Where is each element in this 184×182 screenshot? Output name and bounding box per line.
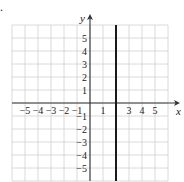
- y-tick-label: −4: [76, 150, 87, 161]
- y-axis-label: y: [79, 12, 85, 24]
- x-tick-label: 4: [140, 105, 145, 116]
- y-tick-label: 3: [82, 59, 87, 70]
- y-tick-label: −3: [76, 137, 87, 148]
- x-tick-label: −5: [20, 105, 31, 116]
- coordinate-plane: −5−4−3−2−1134554321−1−2−3−4−5 x y: [0, 0, 184, 182]
- x-tick-label: 3: [127, 105, 132, 116]
- y-tick-label: 5: [82, 33, 87, 44]
- x-tick-label: −4: [33, 105, 44, 116]
- x-tick-label: −3: [46, 105, 57, 116]
- y-tick-label: 1: [82, 85, 87, 96]
- x-tick-label: 5: [153, 105, 158, 116]
- y-tick-label: −1: [76, 111, 87, 122]
- x-axis-label: x: [175, 105, 181, 117]
- x-tick-label: −2: [59, 105, 70, 116]
- y-tick-label: −5: [76, 163, 87, 174]
- y-tick-label: −2: [76, 124, 87, 135]
- x-tick-label: 1: [101, 105, 106, 116]
- y-tick-label: 2: [82, 72, 87, 83]
- y-tick-label: 4: [82, 46, 87, 57]
